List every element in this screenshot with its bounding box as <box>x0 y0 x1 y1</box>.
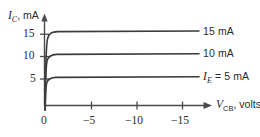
x-tick-label-0: 0 <box>41 115 47 127</box>
curve-10ma <box>45 54 199 110</box>
curve-15ma <box>45 31 199 110</box>
x-axis-symbol: V <box>216 98 223 110</box>
x-axis-unit: , volts <box>233 98 260 110</box>
curve-label-15ma: 15 mA <box>203 26 234 37</box>
y-tick-label-10: 10 <box>23 50 35 62</box>
curve-label-5ma-value: = 5 mA <box>212 70 249 82</box>
x-tick-label-minus15: −15 <box>171 115 189 127</box>
x-axis <box>45 102 213 109</box>
curve-label-10ma: 10 mA <box>203 48 234 59</box>
y-axis-title: IC, mA <box>8 10 39 24</box>
y-tick-label-5: 5 <box>30 73 36 85</box>
x-axis-subscript: CB <box>223 104 233 113</box>
y-axis-unit: , mA <box>17 9 39 21</box>
x-tick-label-minus5: −5 <box>83 115 95 127</box>
x-tick-label-minus10: −10 <box>125 115 143 127</box>
curve-label-5ma: IE = 5 mA <box>203 71 249 85</box>
y-tick-label-15: 15 <box>23 28 35 40</box>
transistor-characteristic-figure: IC, mA VCB, volts 15 10 5 0 −5 −10 −15 1… <box>0 0 260 137</box>
x-axis-title: VCB, volts <box>216 99 260 113</box>
